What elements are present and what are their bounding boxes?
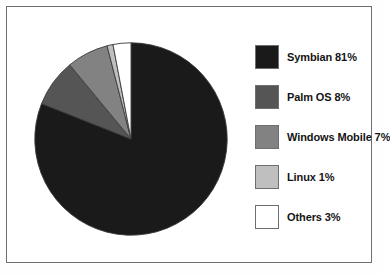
legend-item-palm-os[interactable]: Palm OS 8% bbox=[255, 85, 375, 109]
legend-label-others: Others 3% bbox=[287, 205, 341, 229]
legend-label-linux: Linux 1% bbox=[287, 165, 335, 189]
legend-label-symbian: Symbian 81% bbox=[287, 45, 357, 69]
legend-swatch-others bbox=[255, 205, 279, 229]
legend-swatch-palm-os bbox=[255, 85, 279, 109]
pie-svg bbox=[34, 42, 228, 236]
legend-item-symbian[interactable]: Symbian 81% bbox=[255, 45, 375, 69]
pie-slice-group bbox=[35, 43, 227, 235]
legend-label-palm-os: Palm OS 8% bbox=[287, 85, 350, 109]
legend-swatch-linux bbox=[255, 165, 279, 189]
legend-item-linux[interactable]: Linux 1% bbox=[255, 165, 375, 189]
pie-chart-plot-area bbox=[34, 42, 228, 236]
legend-label-windows-mobile: Windows Mobile 7% bbox=[287, 125, 390, 149]
chart-frame-border: Symbian 81% Palm OS 8% Windows Mobile 7%… bbox=[6, 6, 372, 263]
legend-item-others[interactable]: Others 3% bbox=[255, 205, 375, 229]
legend-swatch-symbian bbox=[255, 45, 279, 69]
legend-swatch-windows-mobile bbox=[255, 125, 279, 149]
chart-legend: Symbian 81% Palm OS 8% Windows Mobile 7%… bbox=[255, 45, 375, 245]
legend-item-windows-mobile[interactable]: Windows Mobile 7% bbox=[255, 125, 375, 149]
